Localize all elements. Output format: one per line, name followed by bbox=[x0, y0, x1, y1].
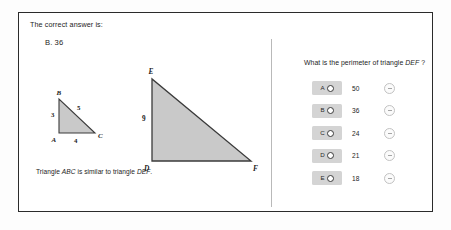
choice-value-a: 50 bbox=[352, 85, 382, 92]
vertex-label-a: A bbox=[51, 136, 57, 144]
answer-choice-row[interactable]: B 36 bbox=[312, 104, 432, 118]
choice-value-e: 18 bbox=[352, 175, 382, 182]
triangle-abc-figure: B A C 3 5 4 bbox=[39, 85, 129, 147]
triangle-def-svg: E D F 9 bbox=[127, 59, 252, 163]
minus-circle-icon[interactable] bbox=[384, 83, 395, 94]
question-text: What is the perimeter of triangle DEF ? bbox=[304, 59, 425, 66]
radio-icon[interactable] bbox=[327, 175, 334, 182]
caption-triangle-abc: ABC bbox=[62, 168, 76, 175]
choice-letter-c: C bbox=[320, 130, 324, 136]
choice-value-c: 24 bbox=[352, 130, 382, 137]
caption-suffix: . bbox=[150, 168, 152, 175]
answer-choice-list: A 50 B 36 C bbox=[312, 81, 432, 194]
choice-key-a[interactable]: A bbox=[312, 81, 342, 95]
choice-key-b[interactable]: B bbox=[312, 104, 342, 118]
radio-icon[interactable] bbox=[327, 152, 334, 159]
side-label-bc: 5 bbox=[77, 104, 81, 111]
choice-letter-a: A bbox=[320, 85, 324, 91]
minus-circle-icon[interactable] bbox=[384, 173, 395, 184]
answer-explanation-card: The correct answer is: B. 36 B A C 3 5 4… bbox=[18, 12, 433, 212]
answer-choice-row[interactable]: D 21 bbox=[312, 149, 432, 163]
figure-caption: Triangle ABC is similar to triangle DEF. bbox=[36, 168, 152, 175]
radio-icon[interactable] bbox=[327, 130, 334, 137]
choice-key-d[interactable]: D bbox=[312, 149, 342, 163]
choice-value-d: 21 bbox=[352, 152, 382, 159]
radio-icon[interactable] bbox=[327, 85, 334, 92]
vertex-label-e: E bbox=[148, 67, 154, 76]
side-label-ab: 3 bbox=[51, 111, 55, 118]
answer-choice-row[interactable]: E 18 bbox=[312, 171, 432, 185]
question-pane: What is the perimeter of triangle DEF ? … bbox=[272, 13, 432, 211]
screen-root: The correct answer is: B. 36 B A C 3 5 4… bbox=[0, 0, 451, 230]
triangle-abc-svg: B A C 3 5 4 bbox=[39, 85, 129, 147]
radio-icon[interactable] bbox=[327, 107, 334, 114]
side-label-de: 9 bbox=[142, 115, 146, 123]
minus-circle-icon[interactable] bbox=[384, 150, 395, 161]
caption-triangle-def: DEF bbox=[137, 168, 150, 175]
vertex-label-c: C bbox=[98, 132, 103, 140]
question-suffix: ? bbox=[419, 59, 425, 66]
minus-circle-icon[interactable] bbox=[384, 105, 395, 116]
answer-choice-row[interactable]: C 24 bbox=[312, 126, 432, 140]
vertex-label-b: B bbox=[56, 89, 62, 97]
side-label-ac: 4 bbox=[74, 137, 78, 144]
minus-circle-icon[interactable] bbox=[384, 128, 395, 139]
triangle-def-figure: E D F 9 bbox=[127, 59, 252, 163]
choice-letter-b: B bbox=[320, 107, 324, 113]
answer-choice-row[interactable]: A 50 bbox=[312, 81, 432, 95]
question-prefix: What is the perimeter of triangle bbox=[304, 59, 405, 66]
choice-letter-e: E bbox=[320, 175, 324, 181]
caption-prefix: Triangle bbox=[36, 168, 62, 175]
triangle-def-shape bbox=[152, 79, 251, 161]
choice-key-e[interactable]: E bbox=[312, 171, 342, 185]
choice-letter-d: D bbox=[320, 152, 324, 158]
figure-pane: B A C 3 5 4 E D F 9 Triangle ABC is simi… bbox=[19, 13, 271, 211]
choice-value-b: 36 bbox=[352, 107, 382, 114]
question-subject: DEF bbox=[405, 59, 419, 66]
vertex-label-f: F bbox=[253, 164, 258, 173]
caption-middle: is similar to triangle bbox=[76, 168, 137, 175]
choice-key-c[interactable]: C bbox=[312, 126, 342, 140]
